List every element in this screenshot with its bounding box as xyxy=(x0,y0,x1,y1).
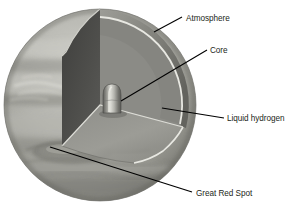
jupiter-cutaway-figure: Atmosphere Core Liquid hydrogen Great Re… xyxy=(0,0,297,211)
leader-line-atmosphere xyxy=(154,17,182,32)
cutaway-wedge xyxy=(62,9,189,163)
labels-group: Atmosphere Core Liquid hydrogen Great Re… xyxy=(186,14,285,198)
diagram-canvas: Atmosphere Core Liquid hydrogen Great Re… xyxy=(0,0,297,211)
label-core: Core xyxy=(210,46,228,55)
label-great-red-spot: Great Red Spot xyxy=(196,189,253,198)
label-liquid-hydrogen: Liquid hydrogen xyxy=(227,114,285,123)
core-shape xyxy=(103,84,121,113)
label-atmosphere: Atmosphere xyxy=(186,14,230,23)
planet-sphere xyxy=(0,9,196,201)
